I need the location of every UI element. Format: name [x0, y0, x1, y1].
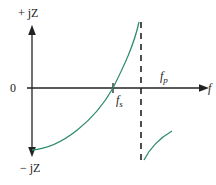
fs-label: fs: [116, 93, 123, 109]
y-top-label: + jZ: [18, 6, 38, 20]
fp-label: fp: [160, 69, 168, 85]
reactance-curve-lower-branch: [32, 22, 139, 150]
reactance-curve-upper-branch: [144, 131, 172, 160]
y-bottom-label: − jZ: [20, 161, 40, 175]
reactance-diagram: + jZ − jZ 0 f fs fp: [0, 0, 216, 185]
x-axis-label: f: [208, 81, 213, 95]
origin-label: 0: [10, 81, 16, 95]
